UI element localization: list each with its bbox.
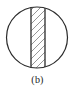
figure-container: (b) (0, 0, 75, 95)
hatch-line (29, 0, 47, 5)
figure-caption-label: (b) (0, 74, 75, 86)
circle-outline (7, 7, 68, 68)
